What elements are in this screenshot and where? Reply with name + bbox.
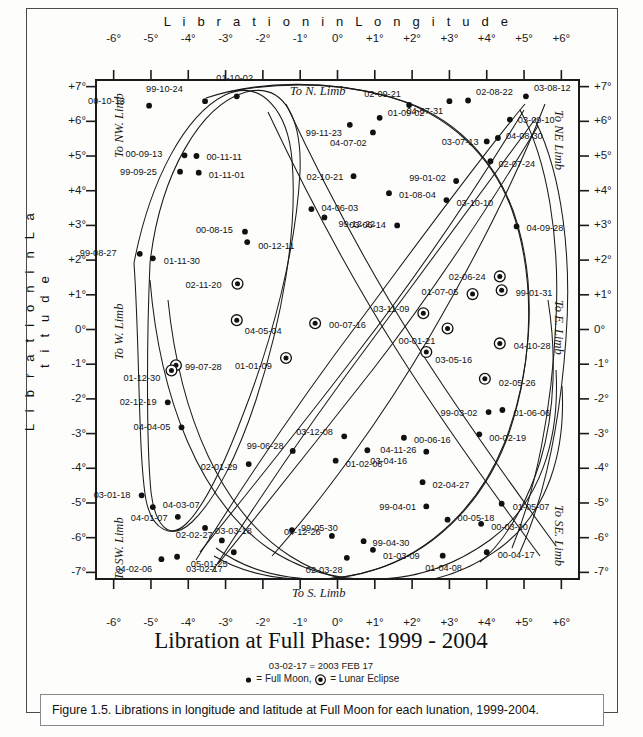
point-label: 00-01-21 bbox=[399, 336, 436, 346]
figure-caption-box: Figure 1.5. Librations in longitude and … bbox=[40, 694, 604, 726]
x-tick-label-top: -6° bbox=[94, 32, 134, 44]
point-label: 02-01-29 bbox=[201, 462, 238, 472]
point-label: 03-09-10 bbox=[518, 115, 555, 125]
point-label: 01-02-08 bbox=[346, 459, 383, 469]
y-tick-label-left: +7° bbox=[56, 80, 86, 92]
y-tick-label-right: -6° bbox=[594, 531, 609, 543]
y-tick-label-right: -3° bbox=[594, 427, 609, 439]
legend-full-moon-label: = Full Moon, bbox=[256, 673, 311, 684]
y-tick-label-left: +5° bbox=[56, 149, 86, 161]
y-tick-label-right: -7° bbox=[594, 565, 609, 577]
x-tick-label-bottom: -1° bbox=[280, 616, 320, 628]
point-label: 00-12-11 bbox=[258, 241, 294, 251]
x-tick-label-top: 0° bbox=[318, 32, 358, 44]
point-label: 03-06-14 bbox=[349, 220, 386, 230]
limb-label-east: To E. Limb bbox=[551, 300, 566, 355]
x-tick-label-top: +4° bbox=[467, 32, 507, 44]
point-label: 00-04-17 bbox=[498, 550, 535, 560]
x-tick-label-bottom: +2° bbox=[392, 616, 432, 628]
point-label: 00-03-20 bbox=[491, 522, 528, 532]
point-label: 01-07-05 bbox=[422, 287, 459, 297]
x-tick-label-top: -5° bbox=[131, 32, 171, 44]
point-label: 99-03-02 bbox=[441, 408, 478, 418]
point-label: 04-12-26 bbox=[284, 527, 321, 537]
point-label: 01-11-30 bbox=[164, 256, 200, 266]
point-label: 99-09-25 bbox=[120, 167, 157, 177]
point-label: 04-07-02 bbox=[330, 138, 367, 148]
point-label: 99-10-24 bbox=[146, 84, 183, 94]
x-axis-title: L i b r a t i o n i n L o n g i t u d e bbox=[95, 14, 581, 29]
point-label: 04-06-03 bbox=[321, 203, 358, 213]
point-label: 00-10-13 bbox=[88, 96, 125, 106]
point-label: 01-08-04 bbox=[399, 190, 436, 200]
y-tick-label-right: +4° bbox=[594, 184, 612, 196]
y-tick-label-right: -2° bbox=[594, 392, 609, 404]
point-label: 99-11-23 bbox=[306, 128, 342, 138]
y-tick-label-left: -7° bbox=[56, 565, 86, 577]
y-tick-label-right: +7° bbox=[594, 80, 612, 92]
x-tick-label-bottom: +1° bbox=[355, 616, 395, 628]
y-tick-label-left: +1° bbox=[56, 288, 86, 300]
x-tick-label-bottom: -4° bbox=[168, 616, 208, 628]
figure-page: L i b r a t i o n i n L o n g i t u d e … bbox=[0, 0, 643, 737]
x-tick-label-bottom: 0° bbox=[318, 616, 358, 628]
point-label: 02-11-20 bbox=[186, 280, 222, 290]
limb-label-south: To S. Limb bbox=[292, 586, 345, 601]
point-label: 04-02-06 bbox=[115, 564, 152, 574]
point-label: 01-05-07 bbox=[513, 502, 550, 512]
x-tick-label-bottom: -5° bbox=[131, 616, 171, 628]
point-label: 01-04-08 bbox=[425, 563, 462, 573]
y-tick-label-right: -1° bbox=[594, 357, 609, 369]
point-label: 03-05-16 bbox=[435, 355, 472, 365]
point-label: 99-04-30 bbox=[373, 538, 410, 548]
point-label: 99-01-31 bbox=[516, 288, 553, 298]
point-label: 99-07-28 bbox=[185, 362, 222, 372]
y-tick-label-right: +2° bbox=[594, 253, 612, 265]
figure-caption-text: Figure 1.5. Librations in longitude and … bbox=[41, 703, 539, 717]
x-tick-label-bottom: +5° bbox=[504, 616, 544, 628]
y-tick-label-right: +1° bbox=[594, 288, 612, 300]
x-tick-label-top: +6° bbox=[541, 32, 581, 44]
x-tick-label-top: -4° bbox=[168, 32, 208, 44]
limb-label-southeast: To SE. Limb bbox=[551, 505, 566, 566]
point-label: 04-03-07 bbox=[163, 500, 200, 510]
legend-eclipse-label: = Lunar Eclipse bbox=[330, 673, 399, 684]
y-tick-label-right: -5° bbox=[594, 496, 609, 508]
point-label: 03-08-12 bbox=[534, 83, 571, 93]
x-tick-label-bottom: -3° bbox=[206, 616, 246, 628]
y-tick-label-left: -1° bbox=[56, 357, 86, 369]
y-tick-label-left: +3° bbox=[56, 218, 86, 230]
y-tick-label-left: +6° bbox=[56, 114, 86, 126]
y-tick-label-left: +4° bbox=[56, 184, 86, 196]
point-label: 02-10-21 bbox=[307, 172, 344, 182]
point-label: 04-09-28 bbox=[527, 223, 564, 233]
limb-label-west: To W. Limb bbox=[112, 304, 127, 360]
point-label: 01-01-09 bbox=[235, 361, 272, 371]
x-tick-label-bottom: +4° bbox=[467, 616, 507, 628]
point-label: 99-06-28 bbox=[247, 441, 284, 451]
y-axis-title: L i b r a t i o n i n L a t i t u d e bbox=[22, 205, 52, 435]
point-label: 00-07-16 bbox=[329, 320, 366, 330]
chart-title: Libration at Full Phase: 1999 - 2004 bbox=[26, 628, 616, 654]
legend-row: = Full Moon, = Lunar Eclipse bbox=[26, 673, 616, 686]
x-tick-label-top: -2° bbox=[243, 32, 283, 44]
point-label: 04-07-31 bbox=[406, 106, 443, 116]
x-tick-label-bottom: -6° bbox=[94, 616, 134, 628]
point-label: 01-11-01 bbox=[209, 170, 245, 180]
full-moon-icon bbox=[243, 674, 254, 685]
point-label: 00-05-18 bbox=[458, 513, 495, 523]
lunar-eclipse-icon bbox=[314, 673, 327, 686]
point-label: 02-05-26 bbox=[499, 378, 536, 388]
point-label: 03-01-18 bbox=[94, 490, 131, 500]
x-tick-label-top: +5° bbox=[504, 32, 544, 44]
point-label: 00-02-19 bbox=[489, 433, 526, 443]
limb-label-north: To N. Limb bbox=[290, 84, 345, 99]
y-tick-label-right: +6° bbox=[594, 114, 612, 126]
point-label: 04-11-26 bbox=[380, 445, 416, 455]
y-tick-label-right: +5° bbox=[594, 149, 612, 161]
point-label: 01-12-30 bbox=[123, 373, 160, 383]
x-tick-label-top: +1° bbox=[355, 32, 395, 44]
point-label: 00-06-16 bbox=[414, 435, 451, 445]
point-label: 02-07-24 bbox=[498, 159, 535, 169]
y-tick-label-left: -6° bbox=[56, 531, 86, 543]
